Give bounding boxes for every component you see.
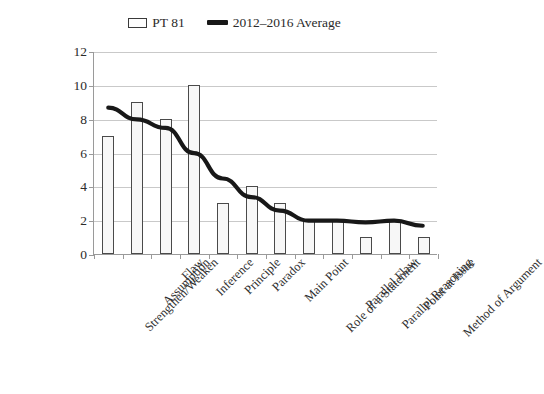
legend-label-line-series: 2012–2016 Average: [233, 16, 341, 30]
line-swatch-icon: [207, 20, 228, 25]
y-axis-tick-label: 12: [74, 45, 88, 59]
y-axis-tick-label: 2: [80, 214, 87, 228]
y-axis-tick-label: 10: [74, 79, 88, 93]
y-axis-tick-label: 8: [80, 113, 87, 127]
bar-swatch-icon: [128, 18, 147, 28]
x-axis-category-label: Parallel Flaw: [363, 256, 419, 312]
chart-legend: PT 81 2012–2016 Average: [0, 16, 469, 30]
x-axis-category-label: Point at Issue: [421, 256, 477, 312]
legend-entry-line-series: 2012–2016 Average: [207, 16, 341, 30]
x-axis-labels: Strengthen/WeakenAssumptionFlawInference…: [93, 256, 437, 386]
average-line-series: [94, 52, 437, 254]
x-axis-tick-mark: [438, 254, 439, 259]
y-axis-tick-label: 0: [80, 248, 87, 262]
legend-entry-bar-series: PT 81: [128, 16, 184, 30]
y-axis-tick-label: 4: [80, 181, 87, 195]
y-axis-tick-label: 6: [80, 147, 87, 161]
legend-label-bar-series: PT 81: [152, 16, 184, 30]
plot-area: 024681012: [93, 52, 437, 255]
average-line-path: [108, 108, 422, 226]
x-axis-category-label: Main Point: [303, 256, 351, 304]
